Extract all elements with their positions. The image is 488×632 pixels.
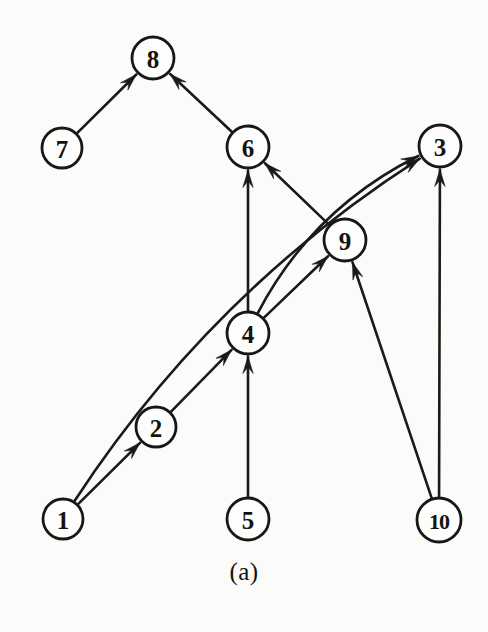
edge-2-to-4	[170, 350, 231, 413]
node-label-10: 10	[429, 509, 450, 534]
edge-6-to-8	[170, 74, 232, 132]
node-label-9: 9	[339, 228, 352, 255]
figure-container: 87639421510 (a)	[0, 0, 488, 632]
directed-graph-canvas: 87639421510	[0, 0, 488, 632]
graph-node-4[interactable]: 4	[227, 312, 269, 354]
node-label-4: 4	[242, 321, 255, 348]
node-label-7: 7	[56, 136, 69, 163]
edge-5-to-4	[243, 357, 253, 498]
node-label-2: 2	[150, 415, 163, 442]
graph-node-5[interactable]: 5	[227, 498, 269, 540]
graph-node-7[interactable]: 7	[42, 128, 82, 168]
graph-node-2[interactable]: 2	[136, 407, 176, 447]
graph-node-6[interactable]: 6	[227, 126, 269, 168]
node-label-3: 3	[434, 134, 447, 161]
figure-caption: (a)	[0, 558, 488, 586]
graph-node-8[interactable]: 8	[132, 37, 174, 79]
edge-9-to-6	[265, 163, 330, 225]
node-label-5: 5	[242, 507, 255, 534]
graph-node-10[interactable]: 10	[417, 498, 461, 542]
graph-node-9[interactable]: 9	[324, 219, 366, 261]
graph-node-3[interactable]: 3	[419, 125, 461, 167]
node-label-8: 8	[147, 46, 160, 73]
edge-10-to-9	[352, 262, 431, 498]
node-label-1: 1	[57, 507, 70, 534]
edge-7-to-8	[77, 75, 137, 134]
node-label-6: 6	[242, 135, 255, 162]
graph-node-1[interactable]: 1	[43, 499, 83, 539]
edge-10-to-3	[435, 169, 445, 497]
